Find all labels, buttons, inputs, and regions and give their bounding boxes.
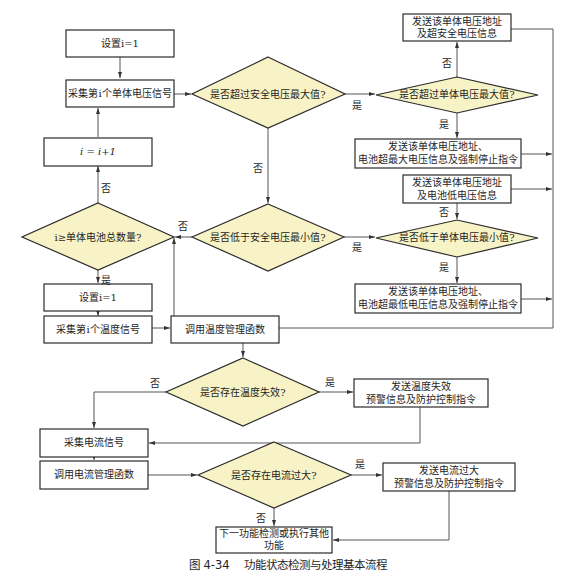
- label-cell-min-yes: 是: [439, 262, 449, 273]
- decision-temp-fail: 是否存在温度失效?: [166, 358, 319, 426]
- figure-caption: 图 4-34 功能状态检测与处理基本流程: [189, 558, 388, 572]
- label-temp-fail-yes: 是: [325, 377, 335, 388]
- decision-temp-fail-label: 是否存在温度失效?: [200, 386, 285, 398]
- process-increment-i: i = i+1: [44, 138, 152, 166]
- process-send-over-max-stop-line1: 发送该单体电压地址、: [388, 140, 488, 152]
- process-send-overcurrent-line2: 预警信息及防护控制指令: [394, 477, 504, 489]
- edge-temp-fail-return: [149, 407, 420, 443]
- label-safe-min-yes: 是: [352, 242, 362, 253]
- decision-overcurrent: 是否存在电流过大?: [198, 442, 351, 508]
- process-send-low-voltage-line2: 及电池低电压信息: [417, 189, 497, 201]
- process-call-current-mgmt-label: 调用电流管理函数: [54, 468, 134, 480]
- label-total-yes: 是: [101, 275, 111, 286]
- process-send-temp-fail-line1: 发送温度失效: [391, 380, 451, 392]
- process-call-temp-mgmt: 调用温度管理函数: [171, 316, 279, 343]
- process-next-function-line1: 下一功能检测或执行其他: [219, 527, 329, 539]
- process-set-i-1: 设置i=1: [66, 30, 174, 57]
- label-safe-max-no: 否: [253, 163, 263, 174]
- process-send-temp-fail-line2: 预警信息及防护控制指令: [366, 393, 476, 405]
- label-cell-max-yes: 是: [439, 119, 449, 130]
- process-collect-temp-label: 采集第i个温度信号: [56, 323, 139, 335]
- process-collect-current-label: 采集电流信号: [64, 436, 124, 448]
- flowchart-svg: 设置i=1 采集第i个单体电压信号 i = i+1 i≥单体电池总数量? 是否超…: [0, 0, 571, 578]
- decision-overcurrent-label: 是否存在电流过大?: [231, 469, 316, 481]
- process-next-function: 下一功能检测或执行其他 功能: [216, 527, 332, 554]
- process-collect-cell-voltage: 采集第i个单体电压信号: [66, 80, 174, 107]
- decision-over-safe-max-label: 是否超过安全电压最大值?: [210, 88, 325, 100]
- process-send-over-safe-line2: 及超安全电压信息: [417, 27, 497, 39]
- label-temp-fail-no: 否: [150, 378, 160, 389]
- label-safe-min-no: 否: [178, 221, 188, 232]
- label-overcurrent-no: 否: [256, 513, 266, 524]
- process-send-overcurrent: 发送电流过大 预警信息及防护控制指令: [383, 463, 515, 491]
- process-send-over-max-stop-line2: 电池超最大电压信息及强制停止指令: [358, 153, 518, 165]
- decision-under-cell-min: 是否低于单体电压最小值?: [376, 220, 538, 257]
- label-overcurrent-yes: 是: [355, 459, 365, 470]
- process-send-low-voltage-line1: 发送该单体电压地址: [412, 176, 502, 188]
- process-next-function-line2: 功能: [264, 539, 284, 551]
- process-send-under-min-stop-line2: 电池超最低电压信息及强制停止指令: [358, 298, 518, 310]
- label-safe-max-yes: 是: [352, 100, 362, 111]
- process-call-current-mgmt: 调用电流管理函数: [40, 461, 148, 489]
- decision-under-cell-min-label: 是否低于单体电压最小值?: [399, 231, 514, 243]
- process-send-low-voltage: 发送该单体电压地址 及电池低电压信息: [403, 175, 511, 203]
- label-total-no: 否: [101, 183, 111, 194]
- decision-over-cell-max: 是否超过单体电压最大值?: [376, 77, 538, 113]
- process-send-over-safe: 发送该单体电压地址 及超安全电压信息: [403, 14, 511, 41]
- process-send-under-min-stop-line1: 发送该单体电压地址、: [388, 285, 488, 297]
- process-call-temp-mgmt-label: 调用温度管理函数: [185, 323, 265, 335]
- process-send-under-min-stop: 发送该单体电压地址、 电池超最低电压信息及强制停止指令: [355, 284, 521, 313]
- process-send-over-safe-line1: 发送该单体电压地址: [412, 15, 502, 27]
- edge-overcurrent-return: [333, 491, 449, 540]
- process-collect-temp: 采集第i个温度信号: [44, 316, 152, 343]
- label-cell-min-no: 否: [439, 207, 449, 218]
- label-cell-max-no: 否: [442, 58, 452, 69]
- decision-i-total-label: i≥单体电池总数量?: [55, 231, 142, 243]
- decision-over-cell-max-label: 是否超过单体电压最大值?: [399, 88, 514, 100]
- process-send-overcurrent-line1: 发送电流过大: [419, 464, 479, 476]
- process-send-over-max-stop: 发送该单体电压地址、 电池超最大电压信息及强制停止指令: [355, 139, 521, 168]
- process-set-i-1-label: 设置i=1: [101, 38, 139, 49]
- process-increment-i-label: i = i+1: [80, 146, 116, 157]
- edge-temp-fail-no: [94, 392, 166, 428]
- process-send-temp-fail: 发送温度失效 预警信息及防护控制指令: [354, 379, 488, 407]
- flowchart-canvas: 设置i=1 采集第i个单体电压信号 i = i+1 i≥单体电池总数量? 是否超…: [0, 0, 571, 578]
- process-collect-cell-voltage-label: 采集第i个单体电压信号: [68, 87, 171, 99]
- decision-under-safe-min-label: 是否低于安全电压最小值?: [210, 231, 325, 243]
- process-collect-current: 采集电流信号: [40, 429, 148, 457]
- decision-over-safe-max: 是否超过安全电压最大值?: [192, 57, 345, 128]
- decision-i-total: i≥单体电池总数量?: [22, 203, 174, 270]
- decision-under-safe-min: 是否低于安全电压最小值?: [192, 204, 344, 271]
- process-set-i-1-temp-label: 设置i=1: [79, 292, 117, 303]
- process-set-i-1-temp: 设置i=1: [44, 284, 152, 311]
